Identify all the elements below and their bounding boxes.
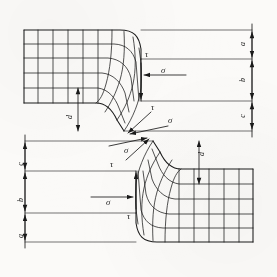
lower-sigma-label-mid: σ (106, 198, 110, 207)
lower-tau-label-toe: τ (110, 160, 113, 169)
lower-tau-label-wall: τ (127, 212, 130, 221)
upper-sigma-label-mid: σ (161, 66, 165, 75)
upper-tau-label-wall: τ (145, 50, 148, 59)
lower-dimension-label-c: c (17, 162, 25, 166)
lower-dimension-label-d: d (198, 152, 206, 156)
upper-sigma-label-toe: σ (168, 116, 172, 125)
upper-dimension-label-a: a (239, 42, 247, 46)
lower-dimension-extension-lines (25, 141, 153, 242)
upper-dimension-label-d: d (66, 115, 74, 119)
upper-dimension-label-b: b (239, 78, 247, 82)
lower-flow-lines (138, 149, 253, 228)
upper-flow-lines (24, 44, 139, 123)
lower-dimension-label-b: b (17, 198, 25, 202)
diagram-canvas (0, 0, 277, 277)
lower-sigma-label-toe: σ (124, 146, 128, 155)
stress-trajectory-figure: a b c d τ σ τ σ c b a d σ τ σ τ (0, 0, 277, 277)
upper-dimension-extension-lines (124, 30, 252, 131)
upper-tau-label-toe: τ (151, 103, 154, 112)
lower-grid-lines (136, 141, 239, 242)
upper-grid-lines (38, 30, 141, 131)
upper-flow-net-outline (24, 30, 141, 131)
lower-flow-net-outline (136, 141, 253, 242)
upper-dimension-label-c: c (239, 114, 247, 118)
lower-dimension-label-a: a (17, 234, 25, 238)
